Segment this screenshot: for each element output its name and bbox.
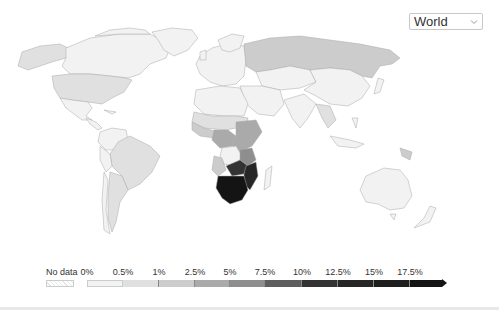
country-new-zealand[interactable] (414, 206, 436, 228)
legend-bin-17.5-plus[interactable] (410, 280, 442, 287)
legend-bin-0.5-1[interactable] (123, 280, 159, 287)
legend-bin-5-7.5[interactable] (230, 280, 265, 287)
legend-tick: 2.5% (185, 267, 206, 277)
country-europe[interactable] (196, 44, 246, 86)
map-svg[interactable] (0, 0, 499, 260)
legend-tick: 12.5% (325, 267, 351, 277)
country-southeast-asia[interactable] (316, 104, 336, 128)
legend-no-data-swatch (46, 280, 74, 287)
legend-bin-2.5-5[interactable] (195, 280, 230, 287)
country-japan[interactable] (374, 78, 384, 94)
legend-tick: 0% (80, 267, 93, 277)
legend-bin-15-17.5[interactable] (374, 280, 410, 287)
country-papua-new-guinea[interactable] (400, 148, 412, 160)
country-central-america[interactable] (86, 118, 102, 130)
country-australia[interactable] (360, 168, 412, 210)
legend-tick: 7.5% (255, 267, 276, 277)
country-north-africa[interactable] (194, 86, 248, 116)
country-indonesia[interactable] (330, 136, 364, 148)
country-canada[interactable] (62, 34, 170, 78)
legend-bin-1-2.5[interactable] (159, 280, 195, 287)
legend-tick: 1% (152, 267, 165, 277)
country-india[interactable] (284, 94, 316, 128)
legend-tick: 15% (365, 267, 383, 277)
map-legend: No data 0% 0.5% 1% 2.5% 5% 7.5% 10% 12.5… (0, 262, 499, 296)
world-map[interactable] (0, 0, 499, 260)
legend-open-ended-arrow-icon (442, 279, 447, 287)
country-alaska[interactable] (18, 44, 68, 70)
country-uk[interactable] (200, 50, 206, 60)
legend-bin-7.5-10[interactable] (265, 280, 302, 287)
legend-no-data-label: No data (46, 267, 78, 277)
region-selector-value: World (414, 14, 470, 29)
chevron-down-icon (470, 18, 478, 26)
legend-tick: 0.5% (113, 267, 134, 277)
legend-bin-12.5-15[interactable] (338, 280, 374, 287)
region-selector[interactable]: World (409, 13, 483, 30)
country-tasmania[interactable] (390, 214, 396, 220)
legend-tick: 10% (293, 267, 311, 277)
country-madagascar[interactable] (264, 166, 272, 190)
legend-tick: 5% (223, 267, 236, 277)
country-caribbean[interactable] (104, 110, 116, 114)
country-southern-africa[interactable] (216, 176, 248, 204)
legend-bin-0-0.5[interactable] (87, 280, 123, 287)
country-philippines[interactable] (352, 118, 358, 128)
legend-bin-10-12.5[interactable] (302, 280, 338, 287)
legend-tick: 17.5% (397, 267, 423, 277)
